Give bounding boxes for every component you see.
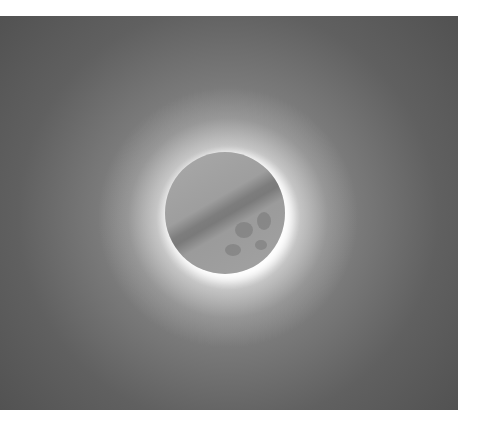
- lunar-maria: [257, 212, 271, 230]
- lunar-maria: [255, 240, 267, 250]
- lunar-maria: [225, 244, 241, 256]
- lunar-maria: [235, 222, 253, 238]
- moon: [165, 152, 285, 274]
- eclipse-photo: [0, 16, 458, 410]
